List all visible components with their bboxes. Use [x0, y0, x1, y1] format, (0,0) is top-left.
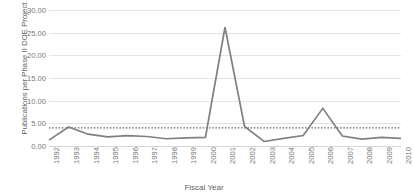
- y-axis-tick-label: 30.00: [12, 6, 46, 15]
- x-axis-tick-label: 1992: [52, 147, 61, 164]
- y-axis-tick-label: 5.00: [12, 119, 46, 128]
- x-axis-tick-label: 1997: [150, 147, 159, 164]
- x-axis-tick-label: 2005: [307, 147, 316, 164]
- y-axis-tick-label: 10.00: [12, 96, 46, 105]
- x-axis-tick-label: 2004: [287, 147, 296, 164]
- x-axis-tick-label: 1993: [72, 147, 81, 164]
- series-layer: [49, 10, 401, 146]
- y-axis-tick-labels: 0.005.0010.0015.0020.0025.0030.00: [12, 0, 46, 196]
- x-axis-tick-label: 2002: [248, 147, 257, 164]
- x-axis-title: Fiscal Year: [0, 183, 408, 192]
- y-axis-tick-label: 0.00: [12, 142, 46, 151]
- x-axis-tick-label: 2007: [346, 147, 355, 164]
- y-axis-tick-label: 20.00: [12, 51, 46, 60]
- x-axis-tick-label: 2009: [385, 147, 394, 164]
- plot-area: [49, 10, 401, 146]
- x-axis-tick-label: 2000: [209, 147, 218, 164]
- x-axis-tick-label: 2003: [268, 147, 277, 164]
- x-axis-tick-label: 1998: [170, 147, 179, 164]
- y-axis-tick-label: 15.00: [12, 74, 46, 83]
- x-axis-tick-label: 1994: [92, 147, 101, 164]
- x-axis-tick-label: 2010: [404, 147, 413, 164]
- x-axis-tick-labels: 1992199319941995199619971998199920002001…: [49, 147, 401, 181]
- x-axis-tick-label: 2001: [228, 147, 237, 164]
- x-axis-tick-label: 2008: [365, 147, 374, 164]
- x-axis-tick-label: 2006: [326, 147, 335, 164]
- y-axis-tick-label: 25.00: [12, 28, 46, 37]
- x-axis-tick-label: 1995: [111, 147, 120, 164]
- x-axis-tick-label: 1996: [131, 147, 140, 164]
- x-axis-tick-label: 1999: [189, 147, 198, 164]
- data-series-line: [49, 27, 401, 141]
